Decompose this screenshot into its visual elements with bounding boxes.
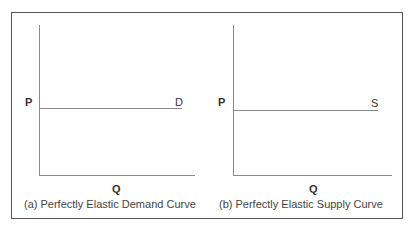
- panel-b-x-axis: [233, 175, 392, 176]
- panel-b-y-axis: [233, 25, 234, 176]
- panel-a-x-label: Q: [112, 183, 121, 195]
- panel-a-y-axis: [39, 25, 40, 176]
- panel-b-caption: (b) Perfectly Elastic Supply Curve: [219, 198, 383, 211]
- panel-b-y-label: P: [218, 96, 225, 108]
- figure-frame: [11, 12, 403, 219]
- panel-b-x-label: Q: [309, 183, 318, 195]
- panel-a-demand-curve: [39, 108, 182, 109]
- panel-a-caption: (a) Perfectly Elastic Demand Curve: [24, 198, 196, 211]
- panel-b-curve-label: S: [371, 97, 378, 109]
- panel-a-y-label: P: [25, 96, 32, 108]
- panel-a-x-axis: [39, 175, 195, 176]
- panel-b-supply-curve: [233, 110, 378, 111]
- panel-a-curve-label: D: [175, 96, 183, 108]
